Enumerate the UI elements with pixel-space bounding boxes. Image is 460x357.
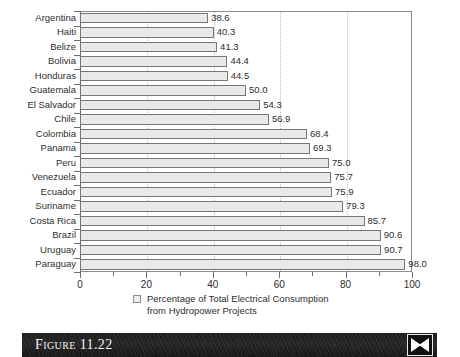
y-axis-tick <box>74 200 81 201</box>
bar-row: 79.3 <box>80 200 412 215</box>
bar-value-label: 75.9 <box>335 185 354 198</box>
category-label: Paraguay <box>0 258 76 270</box>
category-label: Argentina <box>0 12 76 24</box>
x-bowtie-logo-icon <box>407 334 433 356</box>
y-axis-tick <box>74 156 81 157</box>
bar <box>80 245 381 256</box>
bar-row: 69.3 <box>80 142 412 157</box>
bar <box>80 158 329 169</box>
bar-row: 98.0 <box>80 258 412 273</box>
bar-value-label: 79.3 <box>346 199 365 212</box>
bar-value-label: 90.6 <box>384 228 403 241</box>
figure-caption-label: Figure 11.22 <box>35 337 113 353</box>
bar-value-label: 41.3 <box>220 40 239 53</box>
bar <box>80 27 214 38</box>
y-axis-tick <box>74 55 81 56</box>
x-axis-minor-tick <box>379 272 380 276</box>
category-label: Brazil <box>0 229 76 241</box>
bar-value-label: 40.3 <box>217 25 236 38</box>
x-axis-tick-label: 20 <box>141 278 152 291</box>
legend-swatch-icon <box>133 295 141 303</box>
bar-value-label: 56.9 <box>272 112 291 125</box>
x-axis-tick-label: 80 <box>340 278 351 291</box>
x-axis-ticks <box>80 272 412 282</box>
category-label: Honduras <box>0 70 76 82</box>
y-axis-tick <box>74 229 81 230</box>
bar <box>80 230 381 241</box>
y-axis-tick <box>74 142 81 143</box>
bar-value-label: 44.4 <box>230 54 249 67</box>
bar-rows: 38.640.341.344.444.550.054.356.968.469.3… <box>80 11 412 272</box>
bar <box>80 42 217 53</box>
bar <box>80 187 332 198</box>
y-axis-tick <box>74 84 81 85</box>
y-axis-tick <box>74 40 81 41</box>
figure-caption-bar: Figure 11.22 <box>22 333 437 357</box>
bar <box>80 114 269 125</box>
bar-value-label: 90.7 <box>384 243 403 256</box>
x-axis-tick-label: 40 <box>207 278 218 291</box>
bar <box>80 201 343 212</box>
bar <box>80 172 331 183</box>
bar-row: 90.7 <box>80 243 412 258</box>
x-axis-tick-label: 0 <box>77 278 83 291</box>
bar <box>80 143 310 154</box>
y-axis-tick <box>74 258 81 259</box>
bar-row: 40.3 <box>80 26 412 41</box>
bar-row: 38.6 <box>80 11 412 26</box>
bar-row: 75.9 <box>80 185 412 200</box>
category-label: Costa Rica <box>0 215 76 227</box>
category-label: Ecuador <box>0 186 76 198</box>
bar <box>80 71 228 82</box>
y-axis-tick <box>74 185 81 186</box>
bar-value-label: 54.3 <box>263 98 282 111</box>
bar <box>80 85 246 96</box>
category-label: Suriname <box>0 200 76 212</box>
bar-row: 85.7 <box>80 214 412 229</box>
figure-hydropower-bar-chart: 38.640.341.344.444.550.054.356.968.469.3… <box>0 0 460 357</box>
category-label: Bolivia <box>0 55 76 67</box>
x-axis-minor-tick <box>246 272 247 276</box>
bar <box>80 259 405 270</box>
category-label: Colombia <box>0 128 76 140</box>
bar-value-label: 38.6 <box>211 11 230 24</box>
legend-label: Percentage of Total Electrical Consumpti… <box>147 293 328 316</box>
x-axis-minor-tick <box>113 272 114 276</box>
category-label: El Salvador <box>0 99 76 111</box>
y-axis-tick <box>74 214 81 215</box>
y-axis-tick <box>74 69 81 70</box>
legend-label-line2: from Hydropower Projects <box>147 305 328 317</box>
bar-row: 68.4 <box>80 127 412 142</box>
y-axis-tick <box>74 171 81 172</box>
category-label: Venezuela <box>0 171 76 183</box>
bar-row: 54.3 <box>80 98 412 113</box>
y-axis-tick <box>74 127 81 128</box>
legend-label-line1: Percentage of Total Electrical Consumpti… <box>147 293 328 305</box>
bar-row: 44.4 <box>80 55 412 70</box>
category-label: Chile <box>0 113 76 125</box>
y-axis-tick <box>74 26 81 27</box>
bar-row: 41.3 <box>80 40 412 55</box>
bar <box>80 13 208 24</box>
bar-value-label: 75.0 <box>332 156 351 169</box>
y-axis-tick <box>74 98 81 99</box>
x-axis-minor-tick <box>312 272 313 276</box>
bar-value-label: 68.4 <box>310 127 329 140</box>
bar <box>80 129 307 140</box>
category-label: Peru <box>0 157 76 169</box>
category-label: Uruguay <box>0 244 76 256</box>
bar-value-label: 69.3 <box>313 141 332 154</box>
bar-row: 56.9 <box>80 113 412 128</box>
bar-value-label: 98.0 <box>408 257 427 270</box>
category-label: Haiti <box>0 26 76 38</box>
x-axis-tick-label: 100 <box>404 278 421 291</box>
bar-value-label: 75.7 <box>334 170 353 183</box>
bar-row: 75.0 <box>80 156 412 171</box>
bar-value-label: 85.7 <box>368 214 387 227</box>
bar-value-label: 50.0 <box>249 83 268 96</box>
bar-row: 90.6 <box>80 229 412 244</box>
bar-value-label: 44.5 <box>231 69 250 82</box>
x-axis-tick-label: 60 <box>274 278 285 291</box>
bar-row: 44.5 <box>80 69 412 84</box>
category-label: Belize <box>0 41 76 53</box>
